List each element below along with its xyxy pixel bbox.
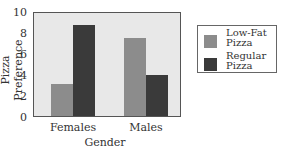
y-tick-0: 0 bbox=[13, 112, 27, 123]
bar-females-lowfat bbox=[51, 84, 73, 116]
legend-swatch-lowfat bbox=[204, 35, 217, 48]
legend-label-lowfat: Low-Fat Pizza bbox=[226, 28, 276, 48]
y-tick-2: 2 bbox=[13, 91, 27, 102]
x-axis-label: Gender bbox=[60, 136, 150, 149]
y-tick-4: 4 bbox=[13, 70, 27, 81]
legend-label-line: Pizza bbox=[226, 61, 276, 71]
legend-item-lowfat: Low-Fat Pizza bbox=[204, 28, 276, 48]
y-tick-10: 10 bbox=[13, 7, 27, 18]
legend-swatch-regular bbox=[204, 58, 217, 71]
legend-label-line: Pizza bbox=[226, 38, 276, 48]
legend-label-regular: Regular Pizza bbox=[226, 51, 276, 71]
x-category-females: Females bbox=[43, 121, 103, 134]
y-tick-8: 8 bbox=[13, 28, 27, 39]
y-tick-6: 6 bbox=[13, 49, 27, 60]
legend-item-regular: Regular Pizza bbox=[204, 51, 276, 71]
legend: Low-Fat Pizza Regular Pizza bbox=[197, 25, 277, 73]
bar-females-regular bbox=[73, 25, 95, 116]
plot-area bbox=[33, 12, 181, 117]
bar-males-regular bbox=[146, 75, 168, 116]
x-category-males: Males bbox=[116, 121, 176, 134]
bar-males-lowfat bbox=[124, 38, 146, 116]
